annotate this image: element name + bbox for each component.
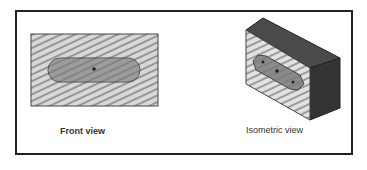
isometric-view-drawing bbox=[246, 18, 340, 120]
front-view-drawing bbox=[31, 34, 158, 106]
diagram-canvas bbox=[0, 0, 367, 170]
front-view-label: Front view bbox=[60, 126, 105, 136]
isometric-view-label: Isometric view bbox=[246, 125, 303, 135]
